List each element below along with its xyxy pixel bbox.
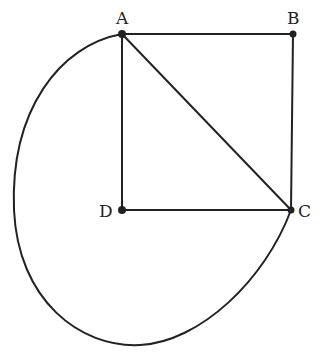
label-b: B: [287, 10, 300, 27]
point-b: [290, 31, 297, 38]
curve-arc: [14, 34, 291, 345]
label-c: C: [298, 203, 311, 220]
geometry-diagram: [0, 0, 332, 360]
label-a: A: [116, 10, 128, 27]
point-a: [118, 30, 126, 38]
segment-ac: [122, 34, 291, 210]
point-c: [288, 207, 295, 214]
segment-bc: [291, 34, 293, 210]
label-d: D: [99, 203, 113, 220]
point-d: [118, 206, 126, 214]
